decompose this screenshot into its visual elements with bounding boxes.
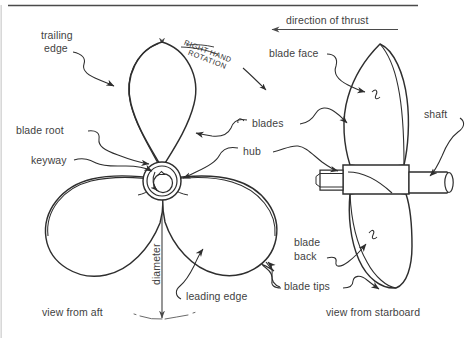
leading-edge-label: leading edge [186,290,247,303]
blade-upper-outline [129,42,196,168]
blade-face-label: blade face [269,47,318,60]
starboard-upper-blade [344,44,408,167]
leader-blades-left [196,119,247,136]
leader-blade-root [88,131,149,164]
leader-trailing-edge [73,52,114,86]
keyway-label: keyway [31,154,67,167]
shaft-label: shaft [424,108,447,121]
caption-view-from-starboard: view from starboard [326,306,420,319]
thrust-label: direction of thrust [286,14,368,27]
caption-view-from-aft: view from aft [42,306,103,319]
rotation-direction-arrow [243,68,266,90]
starboard-lower-blade [349,192,412,288]
blade-tips-label: blade tips [284,280,330,293]
leader-hub-right [273,146,338,171]
starboard-hub-body [343,165,409,194]
diagram-page: direction of thrust RIGHT HAND ROTATION … [0,0,472,338]
shaft-end-ellipse [445,173,453,193]
leader-blade-tips-left-arrow [268,262,280,287]
propeller-drawing [0,0,472,338]
blades-label: blades [252,117,284,130]
blade-lower-right-outline [163,176,277,276]
trailing-edge-label-line1: trailing [41,29,73,42]
blade-back-label-line1: blade [294,236,320,249]
leader-keyway [74,159,152,171]
leader-shaft [430,118,464,176]
blade-root-label: blade root [16,124,64,137]
leader-blades-right [300,108,347,124]
hub-outer-circle [143,162,181,200]
leader-hub-left [183,147,238,178]
hub-label: hub [243,145,261,158]
diameter-label: diameter [150,243,163,285]
blade-back-label-line2: back [294,250,317,263]
diameter-base-ticks [134,312,195,319]
trailing-edge-label-line2: edge [44,42,68,55]
